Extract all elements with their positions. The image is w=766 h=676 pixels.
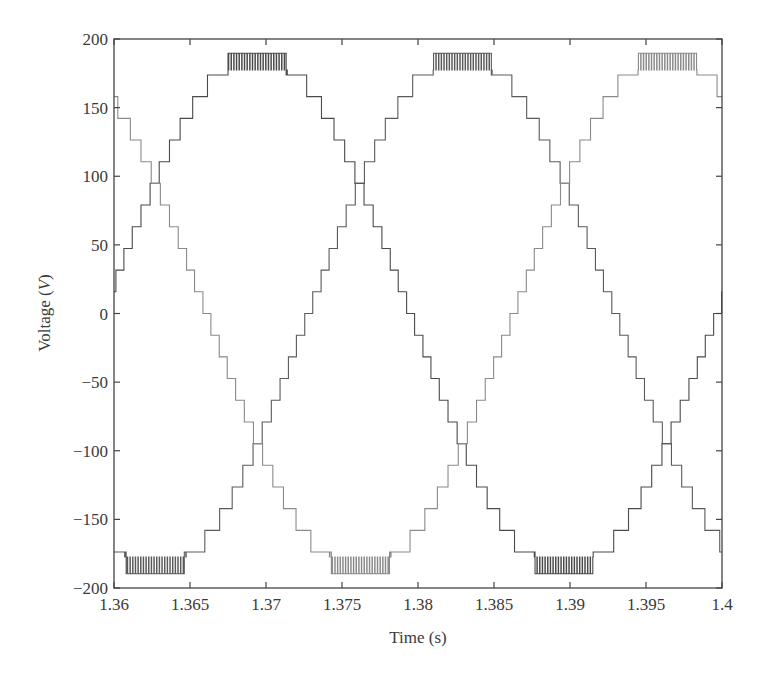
y-tick-label: −150 bbox=[73, 510, 108, 529]
x-tick-label: 1.385 bbox=[475, 595, 513, 614]
y-tick-label: 100 bbox=[83, 167, 109, 186]
x-tick-label: 1.39 bbox=[555, 595, 585, 614]
x-axis-title: Time (s) bbox=[389, 628, 446, 647]
y-tick-label: −50 bbox=[81, 373, 108, 392]
y-tick-label: 50 bbox=[91, 236, 108, 255]
x-tick-label: 1.38 bbox=[403, 595, 433, 614]
y-tick-label: 150 bbox=[83, 99, 109, 118]
waveform-series bbox=[114, 53, 722, 573]
y-tick-label: −200 bbox=[73, 579, 108, 598]
x-tick-label: 1.365 bbox=[171, 595, 209, 614]
x-axis-ticks: 1.361.3651.371.3751.381.3851.391.3951.4 bbox=[99, 39, 733, 614]
y-tick-label: 0 bbox=[100, 305, 109, 324]
x-tick-label: 1.395 bbox=[627, 595, 665, 614]
x-tick-label: 1.37 bbox=[251, 595, 281, 614]
voltage-time-chart: 1.361.3651.371.3751.381.3851.391.3951.4 … bbox=[0, 0, 766, 676]
x-tick-label: 1.4 bbox=[711, 595, 733, 614]
y-tick-label: −100 bbox=[73, 442, 108, 461]
y-axis-title: Voltage (V) bbox=[35, 274, 54, 352]
y-tick-label: 200 bbox=[83, 30, 109, 49]
x-tick-label: 1.375 bbox=[323, 595, 361, 614]
series-line-phase-c bbox=[114, 53, 722, 573]
